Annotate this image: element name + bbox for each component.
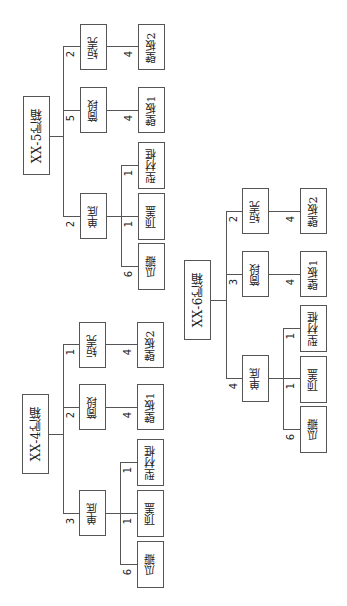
node-gore-petal: 瓜瓣 xyxy=(137,541,164,588)
qty-label: 6 xyxy=(124,269,134,279)
connector xyxy=(121,165,138,166)
node-gore-petal: 瓜瓣 xyxy=(300,406,327,453)
qty-label: 1 xyxy=(286,331,296,341)
root-node: XX-5贮箱 xyxy=(23,96,50,175)
connector xyxy=(63,407,79,408)
node-label: 壁板1 xyxy=(144,95,160,126)
node-single-bottom: 单底 xyxy=(242,355,269,402)
connector xyxy=(226,211,242,212)
qty-label: 6 xyxy=(123,567,133,577)
root-node: XX-6贮箱 xyxy=(184,260,211,340)
node-label: 单底 xyxy=(85,502,101,525)
qty-label: 5 xyxy=(66,113,76,123)
node-top-cover: 顶盖 xyxy=(300,356,327,403)
connector xyxy=(226,378,242,379)
qty-label: 4 xyxy=(124,113,134,123)
node-label: 壁板2 xyxy=(143,330,159,361)
qty-label: 2 xyxy=(66,219,76,229)
bus-line xyxy=(283,328,284,430)
connector xyxy=(283,328,300,329)
qty-label: 1 xyxy=(123,465,133,475)
node-label: 短壳 xyxy=(86,36,102,59)
node-barrel-section: 筒段 xyxy=(79,384,106,430)
node-label: 壁板1 xyxy=(306,259,322,290)
connector xyxy=(63,110,80,111)
bus-line xyxy=(63,46,64,216)
node-label: 顶盖 xyxy=(143,502,159,525)
connector xyxy=(106,46,138,47)
connector xyxy=(106,110,138,111)
connector xyxy=(106,407,137,408)
qty-label: 4 xyxy=(123,410,133,420)
connector xyxy=(268,378,283,379)
connector xyxy=(63,216,80,217)
qty-label: 4 xyxy=(286,277,296,287)
qty-label: 1 xyxy=(123,516,133,526)
node-short-shell: 短壳 xyxy=(242,188,269,234)
node-panel2: 壁板2 xyxy=(137,322,164,368)
connector xyxy=(283,429,300,430)
connector xyxy=(63,344,79,345)
connector xyxy=(121,216,138,217)
connector xyxy=(106,216,121,217)
connector xyxy=(226,274,242,275)
node-label: 瓜瓣 xyxy=(143,553,159,576)
connector xyxy=(211,300,226,301)
node-barrel-section: 筒段 xyxy=(80,87,107,133)
node-single-bottom: 单底 xyxy=(79,490,106,536)
qty-label: 4 xyxy=(286,214,296,224)
qty-label: 1 xyxy=(124,168,134,178)
node-profile-frame: 型材框 xyxy=(300,305,327,352)
node-top-cover: 顶盖 xyxy=(138,193,165,240)
node-label: 筒段 xyxy=(86,99,102,122)
connector xyxy=(106,344,137,345)
node-label: 短壳 xyxy=(85,334,101,357)
node-panel2: 壁板2 xyxy=(138,24,165,70)
node-barrel-section: 筒段 xyxy=(242,251,269,297)
connector xyxy=(121,266,138,267)
node-label: 单底 xyxy=(86,205,102,228)
node-label: 壁板2 xyxy=(144,32,160,63)
node-label: 瓜瓣 xyxy=(144,255,160,278)
node-panel2: 壁板2 xyxy=(300,188,327,234)
qty-label: 2 xyxy=(229,214,239,224)
qty-label: 3 xyxy=(66,516,76,526)
node-label: 顶盖 xyxy=(306,368,322,391)
connector xyxy=(120,462,137,463)
node-label: XX-5贮箱 xyxy=(28,108,45,163)
node-short-shell: 短壳 xyxy=(79,322,106,368)
qty-label: 4 xyxy=(124,49,134,59)
qty-label: 4 xyxy=(229,381,239,391)
qty-label: 2 xyxy=(66,410,76,420)
qty-label: 1 xyxy=(66,347,76,357)
qty-label: 2 xyxy=(66,49,76,59)
connector xyxy=(268,274,300,275)
node-label: 短壳 xyxy=(248,200,264,223)
connector xyxy=(268,211,300,212)
connector xyxy=(120,564,137,565)
qty-label: 4 xyxy=(123,347,133,357)
node-panel1: 壁板1 xyxy=(137,384,164,430)
node-label: XX-4贮箱 xyxy=(27,406,44,461)
node-profile-frame: 型材框 xyxy=(137,439,164,486)
node-label: 型材框 xyxy=(143,445,159,480)
qty-label: 3 xyxy=(229,277,239,287)
root-node: XX-4贮箱 xyxy=(22,394,49,474)
bus-line xyxy=(226,211,227,379)
connector xyxy=(49,136,63,137)
connector xyxy=(63,513,79,514)
node-top-cover: 顶盖 xyxy=(137,490,164,537)
node-label: 壁板2 xyxy=(306,196,322,227)
bus-line xyxy=(63,344,64,514)
qty-label: 1 xyxy=(286,381,296,391)
node-profile-frame: 型材框 xyxy=(138,142,165,189)
node-label: XX-6贮箱 xyxy=(189,272,206,327)
node-panel1: 壁板1 xyxy=(138,87,165,133)
node-label: 型材框 xyxy=(306,311,322,346)
node-label: 筒段 xyxy=(248,263,264,286)
node-label: 顶盖 xyxy=(144,205,160,228)
node-label: 瓜瓣 xyxy=(306,418,322,441)
node-panel1: 壁板1 xyxy=(300,251,327,297)
node-label: 型材框 xyxy=(144,148,160,183)
qty-label: 1 xyxy=(124,219,134,229)
